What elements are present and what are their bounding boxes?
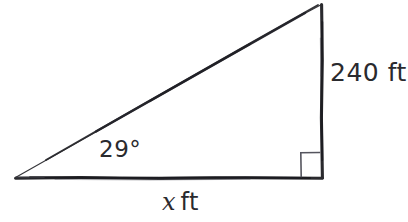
vertical-side-label: 240 ft [330, 60, 407, 85]
triangle-figure: 240 ft 29° xft [0, 0, 408, 222]
vertical-side [320, 5, 322, 178]
triangle-drawing [0, 0, 408, 222]
base-side [16, 177, 323, 180]
base-variable: x [162, 188, 176, 216]
right-angle-icon [301, 153, 320, 177]
base-side-label: xft [162, 190, 199, 214]
base-unit: ft [181, 188, 199, 216]
angle-label: 29° [99, 138, 141, 161]
hypotenuse-side [16, 5, 322, 178]
